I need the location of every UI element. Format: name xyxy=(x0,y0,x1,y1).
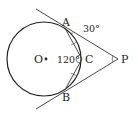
label-a: A xyxy=(61,16,71,29)
tangent-line-pa xyxy=(36,9,118,59)
angle-label-30: 30° xyxy=(83,23,100,34)
label-o: O xyxy=(34,53,43,66)
angle-label-120: 120° xyxy=(57,54,80,65)
geometry-diagram: O A B C P 30° 120° xyxy=(0,0,138,113)
tangent-line-pb xyxy=(36,59,118,109)
label-c: C xyxy=(85,53,93,66)
label-p: P xyxy=(121,53,129,66)
angle-arc-p xyxy=(112,56,113,62)
label-b: B xyxy=(62,91,70,104)
center-point-o xyxy=(45,58,48,61)
